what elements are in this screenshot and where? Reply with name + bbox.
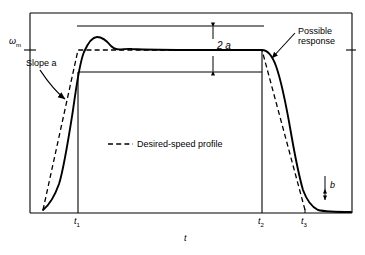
t3-tick-label: t3: [301, 216, 307, 228]
response-plot-figure: ωm Slope a 2 a Possible response Desired…: [0, 0, 365, 255]
possible-response-line1: Possible: [298, 26, 332, 36]
t2-tick-label: t2: [258, 216, 264, 228]
possible-response-callout-arrow: [272, 33, 295, 58]
possible-response-line2: response: [298, 36, 335, 46]
slope-a-callout-arrow: [40, 70, 65, 99]
t1-tick-label: t1: [74, 216, 80, 228]
overshoot-band-label: 2 a: [217, 40, 231, 52]
desired-speed-profile-curve: [43, 50, 305, 210]
omega-m-label: ωm: [9, 36, 21, 48]
possible-response-label: Possible response: [298, 26, 335, 47]
legend-desired-speed-label: Desired-speed profile: [137, 139, 223, 149]
possible-response-curve: [43, 37, 351, 212]
undershoot-label: b: [330, 180, 335, 190]
x-axis-label: t: [184, 233, 187, 243]
slope-a-label: Slope a: [26, 58, 57, 68]
